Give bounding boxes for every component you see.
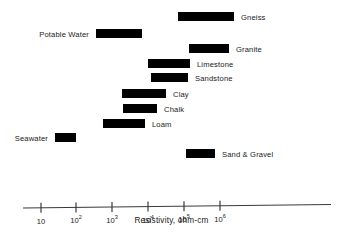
range-bar-label: Clay [173,90,189,99]
range-bar [178,12,234,21]
range-bar [151,73,188,82]
axis-baseline [23,205,331,209]
axis-title: Resistivity, ohm-cm [0,216,343,225]
range-bar [123,104,157,113]
range-bar [122,89,166,98]
range-bar-label: Loam [152,120,172,129]
range-bar-label: Chalk [164,105,184,114]
range-bar-label: Sand & Gravel [222,150,273,159]
range-bar-label: Gneiss [241,13,266,22]
x-axis: 10102103104105106 Resistivity, ohm-cm [0,180,343,243]
axis-line-svg [0,180,343,220]
range-bar [96,29,142,38]
range-bar [103,119,145,128]
range-bar-label: Seawater [15,134,48,143]
resistivity-range-chart: GneissPotable WaterGraniteLimestoneSands… [0,0,343,243]
range-bar-label: Sandstone [195,74,233,83]
range-bar [55,133,76,142]
range-bar [189,44,229,53]
range-bar-label: Limestone [197,60,233,69]
range-bar [148,59,190,68]
range-bar-label: Potable Water [39,30,89,39]
range-bar [186,149,215,158]
range-bar-label: Granite [236,45,262,54]
